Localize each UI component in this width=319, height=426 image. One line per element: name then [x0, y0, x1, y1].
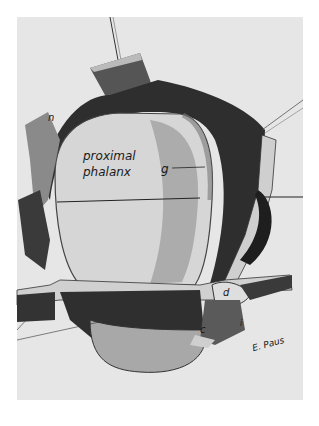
label-n: n [48, 113, 54, 123]
label-c: c [200, 325, 206, 335]
label-proximal: proximal [83, 150, 136, 162]
anatomical-drawing [0, 0, 319, 426]
label-d: d [223, 288, 229, 298]
label-phalanx: phalanx [83, 166, 131, 178]
label-i: i [240, 320, 242, 328]
label-g: g [161, 163, 169, 175]
